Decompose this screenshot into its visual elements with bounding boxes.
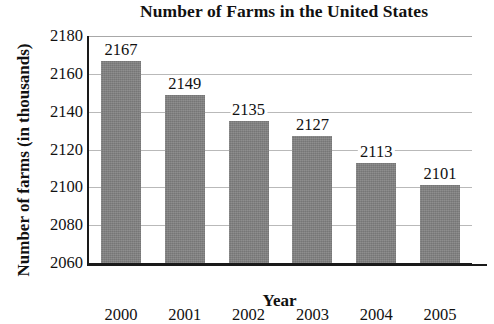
bar-value-label: 2167 xyxy=(102,41,139,58)
bar-value-label: 2101 xyxy=(422,165,459,182)
bar xyxy=(101,61,141,263)
bar xyxy=(420,185,460,263)
bar xyxy=(165,95,205,263)
y-axis-tick-label: 2060 xyxy=(50,253,83,273)
y-axis-tick-label: 2140 xyxy=(50,102,83,122)
bar-group: 2113 xyxy=(344,36,408,263)
bar-group: 2167 xyxy=(89,36,153,263)
chart-title: Number of Farms in the United States xyxy=(84,1,484,22)
bar-value-label: 2113 xyxy=(358,143,394,160)
bar xyxy=(292,136,332,263)
y-axis-tick-label: 2080 xyxy=(50,215,83,235)
x-axis-line xyxy=(87,264,487,267)
y-axis-title: Number of farms (in thousands) xyxy=(14,0,34,320)
bar-value-label: 2127 xyxy=(294,116,331,133)
plot-area: 2180216021402120210020802060 21672149213… xyxy=(87,36,472,265)
bar-group: 2135 xyxy=(217,36,281,263)
bar xyxy=(356,163,396,263)
y-axis-tick-label: 2120 xyxy=(50,140,83,160)
y-axis-tick-label: 2100 xyxy=(50,177,83,197)
bar-group: 2149 xyxy=(153,36,217,263)
x-axis-title: Year xyxy=(87,291,472,311)
bar-group: 2101 xyxy=(408,36,472,263)
bar-group: 2127 xyxy=(281,36,345,263)
bar xyxy=(229,121,269,263)
bar-value-label: 2149 xyxy=(166,75,203,92)
y-axis-tick-label: 2160 xyxy=(50,64,83,84)
bars-layer: 216721492135212721132101 xyxy=(89,36,472,263)
y-axis-tick-label: 2180 xyxy=(50,26,83,46)
bar-value-label: 2135 xyxy=(230,101,267,118)
